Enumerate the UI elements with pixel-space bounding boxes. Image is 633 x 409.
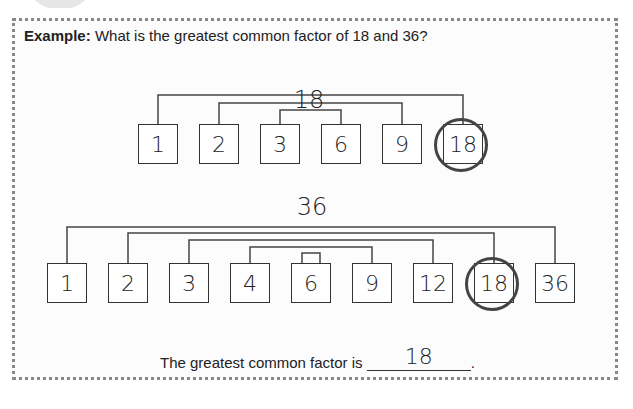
factor-box: 9: [382, 124, 422, 164]
factor-box: 2: [199, 124, 239, 164]
answer-value: 18: [367, 344, 471, 369]
factor-box: 4: [230, 263, 270, 303]
factor-box: 1: [47, 263, 87, 303]
factor-box: 6: [291, 263, 331, 303]
factor-box: 6: [321, 124, 361, 164]
factor-box: 9: [352, 263, 392, 303]
tree-36-number: 36: [297, 193, 328, 221]
answer-sentence: The greatest common factor is 18.: [160, 352, 475, 371]
tree-18-number: 18: [294, 86, 325, 114]
factor-box: 12: [413, 263, 453, 303]
factor-box: 3: [169, 263, 209, 303]
factor-box: 3: [260, 124, 300, 164]
factor-box-circled: 18: [474, 263, 514, 303]
answer-blank: 18: [367, 352, 471, 371]
factor-box: 1: [138, 124, 178, 164]
factor-box: 36: [535, 263, 575, 303]
factor-box-circled: 18: [443, 124, 483, 164]
answer-prefix: The greatest common factor is: [160, 354, 363, 371]
answer-suffix: .: [471, 354, 475, 371]
factor-box: 2: [108, 263, 148, 303]
